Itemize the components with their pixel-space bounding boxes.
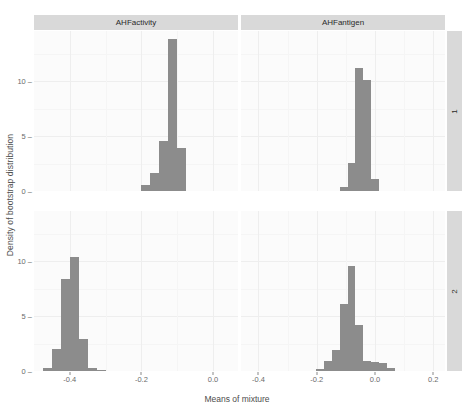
gridline-vertical	[258, 211, 259, 371]
facet-strip-column-ahfactivity: AHFactivity	[34, 15, 238, 30]
gridline-vertical	[141, 211, 142, 371]
gridline-vertical	[258, 31, 259, 191]
gridline-horizontal	[241, 136, 445, 137]
panel-ahfantigen-1	[241, 31, 445, 191]
histogram-bar	[177, 148, 186, 191]
y-tick-label: 5 –	[22, 312, 32, 321]
gridline-horizontal-minor	[34, 109, 238, 110]
gridline-horizontal-minor	[34, 164, 238, 165]
gridline-vertical-minor	[177, 211, 178, 371]
x-axis-ticks-ahfantigen: -0.4-0.20.00.2	[241, 375, 445, 389]
gridline-horizontal-minor	[241, 289, 445, 290]
facet-strip-column-ahfactivity-label: AHFactivity	[116, 18, 156, 27]
gridline-vertical-minor	[404, 211, 405, 371]
panel-ahfactivity-1	[34, 31, 238, 191]
histogram-bar	[371, 179, 379, 191]
gridline-vertical-minor	[106, 31, 107, 191]
histogram-bar	[348, 266, 356, 371]
gridline-horizontal-minor	[241, 109, 445, 110]
facet-strip-row-1: 1	[447, 31, 462, 191]
histogram-bar	[97, 370, 106, 371]
gridline-vertical-minor	[288, 31, 289, 191]
x-tick-label: 0.0	[370, 375, 380, 384]
gridline-horizontal-minor	[241, 234, 445, 235]
histogram-bar	[324, 361, 332, 371]
facet-strip-column-ahfantigen-label: AHFantigen	[322, 18, 364, 27]
x-tick-label: 0.2	[428, 375, 438, 384]
gridline-vertical	[317, 211, 318, 371]
gridline-vertical	[213, 31, 214, 191]
histogram-bar	[159, 141, 168, 191]
facet-strip-row-1-label: 1	[450, 109, 459, 113]
facet-strip-column-ahfantigen: AHFantigen	[241, 15, 445, 30]
gridline-vertical	[70, 31, 71, 191]
histogram-bar	[52, 349, 61, 371]
gridline-horizontal	[34, 136, 238, 137]
x-tick-label: -0.2	[310, 375, 323, 384]
gridline-vertical	[433, 211, 434, 371]
histogram-bar	[363, 361, 371, 371]
histogram-bar	[371, 362, 379, 371]
histogram-bar	[387, 368, 395, 371]
gridline-horizontal-minor	[34, 54, 238, 55]
histogram-bar	[340, 304, 348, 371]
histogram-bar	[332, 350, 340, 371]
gridline-vertical	[375, 211, 376, 371]
histogram-bar	[150, 173, 159, 191]
gridline-horizontal	[241, 81, 445, 82]
gridline-horizontal-minor	[34, 234, 238, 235]
facet-strip-row-2-label: 2	[450, 289, 459, 293]
histogram-bar	[88, 368, 97, 371]
histogram-bar	[141, 185, 150, 191]
histogram-bar	[348, 163, 356, 191]
histogram-bar	[340, 187, 348, 191]
facet-histogram-chart: Density of bootstrap distribution Means …	[0, 0, 474, 418]
gridline-horizontal	[34, 261, 238, 262]
gridline-horizontal-minor	[241, 54, 445, 55]
gridline-vertical-minor	[288, 211, 289, 371]
histogram-bar	[316, 369, 324, 371]
y-tick-label: 0 –	[22, 367, 32, 376]
histogram-bar	[70, 257, 79, 371]
histogram-bar	[79, 339, 88, 371]
histogram-bar	[363, 80, 371, 191]
facet-strip-row-2: 2	[447, 211, 462, 371]
histogram-bar	[355, 68, 363, 191]
x-tick-label: -0.4	[63, 375, 76, 384]
gridline-vertical-minor	[106, 211, 107, 371]
gridline-vertical-minor	[404, 31, 405, 191]
histogram-bar	[61, 279, 70, 371]
histogram-bar	[379, 363, 387, 371]
x-axis-ticks-ahfactivity: -0.4-0.20.0	[34, 375, 238, 389]
gridline-vertical	[317, 31, 318, 191]
y-axis-ticks-row-2: 0 –5 –10 –	[10, 0, 32, 418]
gridline-horizontal	[34, 81, 238, 82]
histogram-bar	[355, 325, 363, 371]
y-tick-label: 10 –	[17, 257, 32, 266]
gridline-vertical	[375, 31, 376, 191]
x-tick-label: 0.0	[208, 375, 218, 384]
gridline-vertical	[213, 211, 214, 371]
x-tick-label: -0.4	[252, 375, 265, 384]
gridline-vertical	[433, 31, 434, 191]
panel-ahfantigen-2	[241, 211, 445, 371]
panel-ahfactivity-2	[34, 211, 238, 371]
x-tick-label: -0.2	[135, 375, 148, 384]
histogram-bar	[43, 368, 52, 371]
gridline-vertical	[141, 31, 142, 191]
histogram-bar	[168, 39, 177, 191]
x-axis-title: Means of mixture	[0, 394, 474, 404]
gridline-horizontal	[241, 261, 445, 262]
gridline-horizontal-minor	[241, 164, 445, 165]
